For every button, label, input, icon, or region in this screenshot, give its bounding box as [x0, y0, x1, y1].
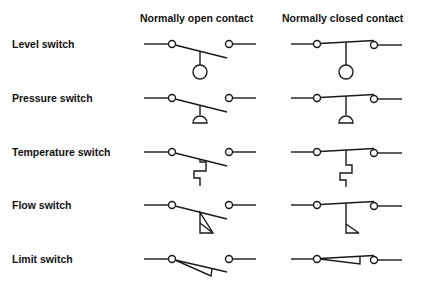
pressure-switch-no-symbol [144, 95, 256, 124]
thermal-element-icon [194, 160, 206, 187]
temperature-switch-nc-symbol [291, 149, 402, 188]
diaphragm-icon [193, 116, 207, 123]
cam-wedge-icon [175, 260, 212, 276]
limit-switch-no-symbol [144, 256, 256, 277]
diaphragm-icon [339, 116, 353, 123]
flow-switch-nc-symbol [291, 202, 402, 234]
flow-switch-no-symbol [144, 202, 256, 234]
pressure-switch-nc-symbol [291, 95, 402, 124]
flow-vane-icon [346, 203, 359, 233]
limit-switch-nc-symbol [291, 256, 402, 265]
temperature-switch-no-symbol [144, 149, 256, 187]
float-icon [339, 65, 353, 79]
level-switch-no-symbol [144, 41, 256, 80]
thermal-element-icon [340, 150, 352, 187]
level-switch-nc-symbol [291, 41, 402, 80]
float-icon [193, 65, 207, 79]
switch-symbols-diagram [0, 0, 421, 285]
